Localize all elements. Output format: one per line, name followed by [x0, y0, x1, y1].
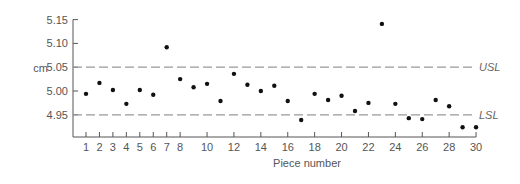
data-point	[84, 92, 88, 96]
x-tick-label: 24	[389, 141, 401, 153]
data-point	[447, 104, 451, 108]
x-tick-label: 10	[201, 141, 213, 153]
x-tick-label: 28	[443, 141, 455, 153]
data-point	[353, 109, 357, 113]
data-point	[420, 117, 424, 121]
data-point	[259, 89, 263, 93]
data-point	[474, 125, 478, 129]
usl-label: USL	[479, 61, 500, 73]
data-point	[272, 84, 276, 88]
x-tick-label: 2	[96, 141, 102, 153]
data-point	[339, 94, 343, 98]
data-point	[205, 82, 209, 86]
x-tick-label: 12	[228, 141, 240, 153]
data-point	[111, 88, 115, 92]
y-axis: 5.155.105.055.004.95	[47, 14, 78, 137]
lsl-label: LSL	[479, 109, 499, 121]
x-tick-label: 18	[309, 141, 321, 153]
data-point	[165, 45, 169, 49]
x-tick-label: 20	[335, 141, 347, 153]
x-axis-label: Piece number	[273, 157, 341, 169]
data-point	[286, 99, 290, 103]
x-tick-label: 14	[255, 141, 267, 153]
data-point	[326, 98, 330, 102]
y-axis-label: cm	[33, 62, 48, 74]
data-point	[218, 99, 222, 103]
x-tick-label: 1	[83, 141, 89, 153]
x-tick-label: 26	[416, 141, 428, 153]
data-point	[434, 98, 438, 102]
data-point	[124, 102, 128, 106]
data-point	[97, 81, 101, 85]
data-point	[380, 22, 384, 26]
data-point	[245, 83, 249, 87]
scatter-chart: 5.155.105.055.004.95 1234567810121416182…	[0, 0, 520, 184]
data-points	[84, 22, 478, 130]
data-point	[232, 72, 236, 76]
x-axis: 123456781012141618202224262830	[73, 132, 482, 153]
y-tick-label: 5.15	[47, 14, 68, 26]
data-point	[393, 102, 397, 106]
x-tick-label: 8	[177, 141, 183, 153]
spec-limits: USLLSL	[73, 61, 500, 121]
data-point	[299, 118, 303, 122]
x-tick-label: 3	[110, 141, 116, 153]
data-point	[460, 125, 464, 129]
data-point	[366, 101, 370, 105]
y-tick-label: 4.95	[47, 109, 68, 121]
data-point	[138, 88, 142, 92]
data-point	[151, 93, 155, 97]
x-tick-label: 30	[470, 141, 482, 153]
y-tick-label: 5.05	[47, 61, 68, 73]
x-tick-label: 6	[150, 141, 156, 153]
x-tick-label: 5	[137, 141, 143, 153]
x-tick-label: 7	[164, 141, 170, 153]
y-tick-label: 5.00	[47, 85, 68, 97]
data-point	[178, 77, 182, 81]
data-point	[407, 116, 411, 120]
x-tick-label: 4	[123, 141, 129, 153]
x-tick-label: 16	[282, 141, 294, 153]
data-point	[312, 92, 316, 96]
x-tick-label: 22	[362, 141, 374, 153]
data-point	[191, 85, 195, 89]
y-tick-label: 5.10	[47, 37, 68, 49]
